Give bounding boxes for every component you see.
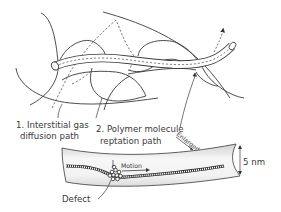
reptation-label-line1: 2. Polymer molecule — [96, 124, 184, 134]
reptation-label-line2: reptation path — [100, 136, 161, 146]
enlarged-section: Motion — [62, 144, 240, 186]
defect-label: Defect — [62, 194, 91, 204]
gas-path-label-line2: diffusion path — [20, 131, 79, 141]
scale-bar: 5 nm — [238, 145, 265, 175]
motion-label: Motion — [121, 162, 142, 169]
scale-label: 5 nm — [243, 157, 265, 167]
gas-path-label-line1: 1. Interstitial gas — [16, 120, 89, 130]
polymer-reptation-diagram: 1. Interstitial gas diffusion path 2. Po… — [0, 0, 281, 212]
reptation-tube — [50, 30, 237, 71]
